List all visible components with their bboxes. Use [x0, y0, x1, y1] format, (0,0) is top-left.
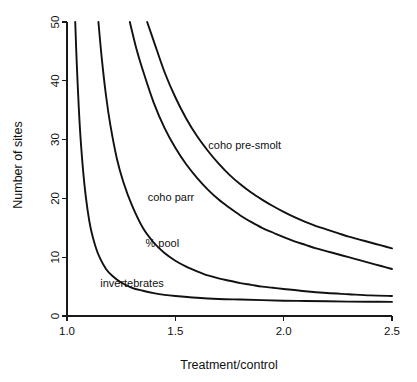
- y-tick-label: 0: [49, 313, 61, 319]
- y-tick-label: 10: [49, 251, 61, 264]
- y-tick-label: 40: [49, 74, 61, 87]
- x-tick-label: 1.5: [167, 325, 183, 337]
- y-axis-title: Number of sites: [11, 121, 25, 209]
- x-tick-label: 2.0: [276, 325, 292, 337]
- series-label-pool: % pool: [146, 237, 180, 249]
- chart-container: 1.01.52.02.5 01020304050 coho pre-smoltc…: [0, 0, 417, 382]
- curve-invertebrates: [75, 22, 392, 302]
- curve-coho-pre-smolt: [147, 22, 392, 248]
- y-tick-label: 50: [49, 16, 61, 29]
- x-axis-title: Treatment/control: [180, 358, 278, 372]
- series-label-coho-parr: coho parr: [148, 191, 195, 203]
- x-tick-label: 1.0: [59, 325, 75, 337]
- series-label-coho-pre-smolt: coho pre-smolt: [208, 139, 281, 151]
- series-label-invertebrates: invertebrates: [100, 277, 164, 289]
- x-tick-label: 2.5: [384, 325, 400, 337]
- axis-titles-group: Treatment/control Number of sites: [11, 121, 278, 372]
- axes-group: [67, 22, 392, 316]
- x-tick-labels: 1.01.52.02.5: [59, 325, 400, 337]
- y-tick-label: 20: [49, 192, 61, 205]
- y-tick-label: 30: [49, 133, 61, 146]
- data-curves-group: [75, 22, 392, 302]
- curve-pool: [98, 22, 392, 296]
- chart-plot-area: 1.01.52.02.5 01020304050 coho pre-smoltc…: [0, 0, 417, 382]
- series-annotation-labels: coho pre-smoltcoho parr% poolinvertebrat…: [100, 139, 281, 289]
- y-tick-labels: 01020304050: [49, 16, 61, 320]
